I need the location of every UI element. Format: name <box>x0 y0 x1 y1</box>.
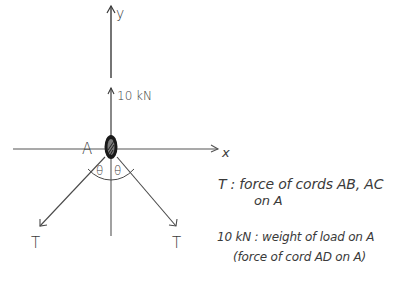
node-a <box>105 135 118 159</box>
legend-tension-line2: on A <box>254 193 282 208</box>
tension-right-label: T <box>172 234 181 252</box>
legend-load-line2: (force of cord AD on A) <box>233 250 366 264</box>
angle-label-right: θ <box>114 164 121 178</box>
node-a-label: A <box>82 140 92 158</box>
legend-tension-line1: T : force of cords AB, AC <box>218 176 383 192</box>
load-force-label: 10 kN <box>117 89 152 103</box>
tension-left-label: T <box>31 234 40 252</box>
y-axis-label: y <box>116 5 124 21</box>
y-axis <box>107 6 115 78</box>
angle-label-left: θ <box>96 164 103 178</box>
tension-right-arrow <box>117 157 177 226</box>
x-axis-label: x <box>221 145 230 160</box>
load-force-arrow <box>108 88 114 136</box>
legend-load-line1: 10 kN : weight of load on A <box>217 230 374 244</box>
